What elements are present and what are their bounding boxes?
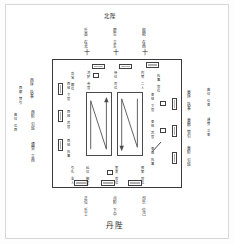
left-column-5-text: 通赞 立西 <box>30 142 33 162</box>
right-column-4: 典仪 位東 <box>206 88 209 107</box>
right-column-4-text: 典仪 位東 <box>206 88 209 107</box>
right-column-3: 東阶 引班 <box>186 146 190 166</box>
hall-north-1-text: 尚宝 卿位 <box>70 72 73 91</box>
hall-east-2-text: 東班 武官 <box>150 120 153 139</box>
top-header-label: 北陛 <box>104 12 115 20</box>
tablet-west-3 <box>58 139 63 151</box>
hall-north-1: 尚宝 卿位 <box>70 72 73 91</box>
east-diagonal-mark <box>152 142 164 154</box>
hall-south-3-text: 宣表 官位 <box>114 166 117 185</box>
top-column-1-text: 乐县 在北 <box>83 28 86 48</box>
top-column-1: 乐县 在北 <box>83 28 87 48</box>
left-column-1-text: 西序 执事 <box>29 78 32 98</box>
court-right-rect <box>117 92 143 156</box>
square-east-a <box>160 101 166 106</box>
left-column-4-text: 典仪 位西 <box>13 113 16 132</box>
bottom-column-1: 正位 乐工 <box>83 196 87 216</box>
hall-east-2: 東班 武官 <box>150 120 153 139</box>
bottom-column-3-text: 司乐 位己 <box>141 196 144 216</box>
bottom-column-2-text: 点阶 下中 <box>112 196 115 216</box>
plate-caption: 丹陛 <box>106 219 123 230</box>
hall-north-2: 鸿胪 寺官 <box>86 71 89 90</box>
bottom-column-2: 点阶 下中 <box>112 196 116 216</box>
bottom-column-1-text: 正位 乐工 <box>83 196 86 216</box>
court-left-rect <box>86 92 112 156</box>
left-column-3: 西阶 引班 <box>30 110 34 130</box>
hall-north-5-text: 执事 官位 <box>156 74 159 93</box>
hall-north-2-text: 鸿胪 寺官 <box>86 71 89 90</box>
hall-west-3-text: 西班 执事 <box>66 139 69 158</box>
tablet-east-1 <box>172 98 177 110</box>
tablet-north-3 <box>146 62 159 68</box>
hall-south-1: 引礼 舍人 <box>70 166 73 185</box>
hall-west-1: 西班 文官 <box>66 82 69 101</box>
right-column-1-text: 東序 执事 <box>186 90 189 110</box>
right-column-3-text: 東阶 引班 <box>186 146 189 166</box>
left-column-4: 典仪 位西 <box>13 113 16 132</box>
right-column-2: 東廊 赞引 <box>186 118 190 138</box>
left-column-3-text: 西阶 引班 <box>30 110 33 130</box>
hall-west-3: 西班 执事 <box>66 139 69 158</box>
court-right-arrow-down <box>119 146 123 151</box>
tablet-west-2 <box>58 110 63 122</box>
tablet-south-2 <box>101 180 115 186</box>
left-column-1: 西序 执事 <box>29 78 33 98</box>
hall-north-4: 内赞 二人 <box>140 71 143 90</box>
left-column-2-text: 西廊 赞引 <box>18 86 21 105</box>
tablet-north-1 <box>92 64 105 69</box>
square-south-a <box>107 170 113 175</box>
hall-north-3-text: 侍仪 司位 <box>113 71 116 90</box>
top-mark-1: 十 <box>84 47 91 56</box>
left-column-2: 西廊 赞引 <box>18 86 21 105</box>
hall-east-1: 東班 文官 <box>150 93 153 112</box>
hall-south-2: 纠仪 御史 <box>85 166 88 185</box>
diagram-page: 北陛 乐县 在北 麾生 立东 鼓柷 在西 十 十 十 西序 执事 西廊 赞引 西… <box>0 0 234 244</box>
top-column-3: 鼓柷 在西 <box>141 28 145 48</box>
bottom-column-3: 司乐 位己 <box>141 196 145 216</box>
top-column-2-text: 麾生 立东 <box>112 28 115 48</box>
top-mark-2: 十 <box>113 47 120 56</box>
hall-north-5: 执事 官位 <box>156 74 159 93</box>
court-left-arrow-up <box>104 97 108 102</box>
square-north-a <box>93 73 99 78</box>
hall-west-2-text: 西班 武官 <box>66 110 69 129</box>
hall-west-1-text: 西班 文官 <box>66 82 69 101</box>
hall-south-4-text: 捧案 官位 <box>140 166 143 185</box>
hall-south-1-text: 引礼 舍人 <box>70 166 73 185</box>
court-right-path-svg <box>118 93 142 155</box>
hall-east-1-text: 東班 文官 <box>150 93 153 112</box>
right-column-5-text: 通赞 立東 <box>206 118 209 137</box>
court-left-path-svg <box>87 93 111 155</box>
tablet-north-2 <box>119 64 132 69</box>
top-column-3-text: 鼓柷 在西 <box>141 28 144 48</box>
hall-south-4: 捧案 官位 <box>140 166 143 185</box>
tablet-east-2 <box>172 125 177 137</box>
square-east-b <box>160 128 166 133</box>
hall-south-3: 宣表 官位 <box>114 166 117 185</box>
right-column-2-text: 東廊 赞引 <box>186 118 189 138</box>
hall-north-4-text: 内赞 二人 <box>140 71 143 90</box>
top-column-2: 麾生 立东 <box>112 28 116 48</box>
right-column-5: 通赞 立東 <box>206 118 209 137</box>
hall-north-3: 侍仪 司位 <box>113 71 116 90</box>
hall-west-2: 西班 武官 <box>66 110 69 129</box>
tablet-east-3 <box>172 152 177 164</box>
left-column-5: 通赞 立西 <box>30 142 34 162</box>
right-column-1: 東序 执事 <box>186 90 190 110</box>
top-mark-3: 十 <box>142 47 149 56</box>
tablet-west-1 <box>58 83 63 95</box>
hall-south-2-text: 纠仪 御史 <box>85 166 88 185</box>
